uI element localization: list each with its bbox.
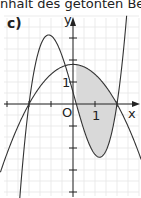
y-tick-label: 1 <box>62 76 70 89</box>
x-tick-label: 1 <box>92 109 100 122</box>
part-label: c) <box>7 15 22 31</box>
x-axis-label: x <box>128 107 136 120</box>
y-axis-label: y <box>64 13 72 26</box>
origin-label: O <box>62 106 72 119</box>
